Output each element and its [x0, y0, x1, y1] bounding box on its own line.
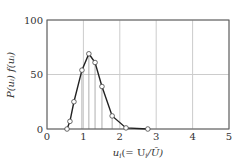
- data-point: [93, 60, 98, 65]
- data-point: [72, 99, 77, 104]
- x-tick-labels: 012345: [44, 131, 232, 142]
- grid-lines: [47, 20, 229, 129]
- data-point: [146, 127, 151, 132]
- x-tick: 1: [80, 131, 86, 142]
- x-tick: 2: [117, 131, 123, 142]
- data-point: [110, 114, 115, 119]
- x-tick: 4: [189, 131, 195, 142]
- y-tick-labels: 050100: [24, 15, 43, 135]
- y-tick: 100: [24, 15, 43, 26]
- data-point: [68, 119, 73, 124]
- y-axis-label: P(uᵢ) f(uᵢ): [5, 52, 16, 99]
- y-tick: 0: [37, 124, 43, 135]
- data-point: [80, 68, 85, 73]
- y-tick: 50: [30, 69, 43, 80]
- series-line: [67, 54, 148, 129]
- data-point: [65, 127, 70, 132]
- data-series: [65, 51, 150, 131]
- x-tick: 3: [153, 131, 159, 142]
- distribution-chart: 012345 050100 ui(= Ui/Ū) P(uᵢ) f(uᵢ): [0, 0, 241, 163]
- x-tick: 0: [44, 131, 50, 142]
- data-point: [124, 126, 129, 131]
- x-axis-label: ui(= Ui/Ū): [113, 147, 164, 160]
- data-point: [100, 84, 105, 89]
- x-tick: 5: [226, 131, 232, 142]
- data-point: [87, 51, 92, 56]
- drop-lines: [82, 54, 112, 129]
